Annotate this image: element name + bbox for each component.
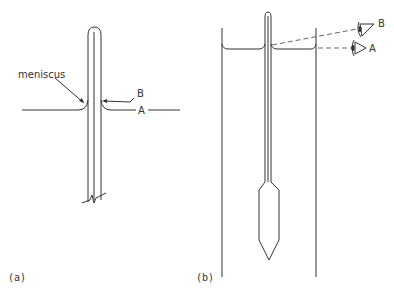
label-a: A bbox=[138, 105, 145, 116]
caption-b: (b) bbox=[196, 272, 214, 283]
eye-icon-A bbox=[351, 40, 366, 56]
liquid-surface-right bbox=[271, 44, 316, 49]
liquid-surface-left bbox=[22, 100, 88, 110]
liquid-surface-left bbox=[222, 44, 265, 49]
eye-icon-B bbox=[358, 22, 374, 37]
label-b: B bbox=[378, 18, 385, 29]
figure-a: meniscus B A (a) bbox=[8, 27, 180, 283]
hydrometer-bulb bbox=[259, 182, 279, 260]
sight-line-b bbox=[272, 29, 357, 45]
arrowhead bbox=[102, 99, 107, 103]
label-a: A bbox=[369, 43, 376, 54]
b-leader bbox=[104, 98, 134, 102]
hydrometer-meniscus-diagram: meniscus B A (a) B bbox=[0, 0, 394, 298]
meniscus-label: meniscus bbox=[18, 69, 65, 80]
figure-b: B A (b) bbox=[196, 12, 385, 283]
meniscus-leader bbox=[55, 78, 84, 103]
label-b: B bbox=[137, 88, 144, 99]
caption-a: (a) bbox=[8, 272, 26, 283]
